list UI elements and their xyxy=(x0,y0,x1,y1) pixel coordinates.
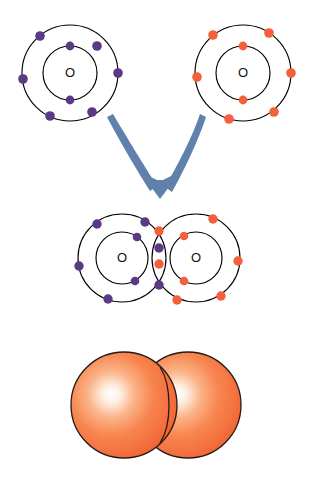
electron-dot xyxy=(45,111,55,121)
left-oxygen-atom: O xyxy=(18,25,123,121)
electron-dot xyxy=(233,256,242,265)
electron-dot xyxy=(35,31,45,41)
right-oxygen-atom: O xyxy=(192,25,296,124)
electron-dot xyxy=(286,68,296,78)
reaction-arrow xyxy=(107,114,206,199)
electron-dot xyxy=(87,107,97,117)
electron-dot xyxy=(208,30,218,40)
electron-dot xyxy=(224,114,234,124)
electron-dot xyxy=(239,96,248,105)
electron-dot xyxy=(208,214,217,223)
electron-dot xyxy=(239,42,248,51)
bonded-right-nucleus-label: O xyxy=(191,250,201,265)
shared-electron-dot xyxy=(154,259,163,268)
electron-dot xyxy=(18,74,28,84)
electron-dot xyxy=(140,217,149,226)
space-filling-model-panel xyxy=(71,352,241,458)
electron-dot xyxy=(216,291,225,300)
shared-electron-dot xyxy=(154,243,163,252)
electron-dot xyxy=(180,232,189,241)
bonded-left-nucleus-label: O xyxy=(117,250,127,265)
electron-dot xyxy=(103,294,112,303)
electron-dot xyxy=(269,107,279,117)
right-atom-nucleus-label: O xyxy=(238,65,248,80)
shared-electron-dot xyxy=(154,280,163,289)
electron-dot xyxy=(113,68,123,78)
shared-electron-pair-region xyxy=(154,226,163,289)
electron-dot xyxy=(172,295,181,304)
electron-dot xyxy=(66,42,75,51)
electron-dot xyxy=(92,41,102,51)
electron-dot xyxy=(264,28,274,38)
figure-root: O O xyxy=(0,0,310,485)
electron-dot xyxy=(74,261,83,270)
electron-dot xyxy=(66,96,75,105)
electron-dot xyxy=(180,277,189,286)
electron-dot xyxy=(133,233,142,242)
electron-dot xyxy=(92,219,101,228)
oxygen-bonding-figure: O O xyxy=(0,0,310,485)
electron-dot xyxy=(192,72,202,82)
shared-electron-dot xyxy=(154,226,163,235)
left-atom-nucleus-label: O xyxy=(65,65,75,80)
bonded-oxygen-molecule-panel: O O xyxy=(74,214,242,305)
electron-dot xyxy=(131,277,140,286)
separate-oxygen-atoms-panel: O O xyxy=(18,25,296,124)
